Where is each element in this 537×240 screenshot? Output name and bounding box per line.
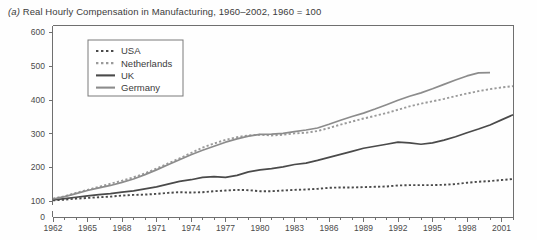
x-axis-tick-label: 1974: [182, 223, 201, 233]
y-axis-origin-label: 0: [40, 212, 45, 222]
chart-page: (a) Real Hourly Compensation in Manufact…: [0, 0, 537, 240]
x-axis-tick-label: 1965: [78, 223, 97, 233]
x-axis-tick-label: 1980: [251, 223, 270, 233]
x-axis-tick-label: 1992: [389, 223, 408, 233]
x-axis-tick-label: 1986: [320, 223, 339, 233]
y-axis-tick-label: 200: [31, 162, 45, 172]
y-axis-tick-label: 600: [31, 27, 45, 37]
series-line-uk: [53, 115, 513, 200]
x-tick-labels: 1962196519681971197419771980198319861989…: [44, 218, 513, 234]
plot-area: 1002003004005006000 19621965196819711974…: [0, 0, 537, 240]
x-axis-tick-label: 1962: [44, 223, 63, 233]
y-axis-tick-label: 100: [31, 196, 45, 206]
legend-label-uk: UK: [121, 70, 135, 81]
legend-label-germany: Germany: [121, 82, 160, 93]
x-axis-tick-label: 1971: [147, 223, 166, 233]
y-axis-tick-label: 300: [31, 129, 45, 139]
x-axis-tick-label: 1995: [423, 223, 442, 233]
x-axis-tick-label: 1983: [285, 223, 304, 233]
line-chart-svg: 1002003004005006000 19621965196819711974…: [0, 0, 537, 240]
x-axis-tick-label: 1998: [458, 223, 477, 233]
y-axis-tick-label: 500: [31, 61, 45, 71]
legend-label-usa: USA: [121, 45, 141, 56]
x-axis-tick-label: 1977: [216, 223, 235, 233]
x-axis-tick-label: 2001: [492, 223, 511, 233]
chart-legend: USANetherlandsUKGermany: [88, 40, 183, 96]
y-tick-labels: 1002003004005006000: [31, 27, 53, 222]
legend-label-netherlands: Netherlands: [121, 58, 172, 69]
x-axis-tick-label: 1989: [354, 223, 373, 233]
x-axis-tick-label: 1968: [113, 223, 132, 233]
y-axis-tick-label: 400: [31, 95, 45, 105]
